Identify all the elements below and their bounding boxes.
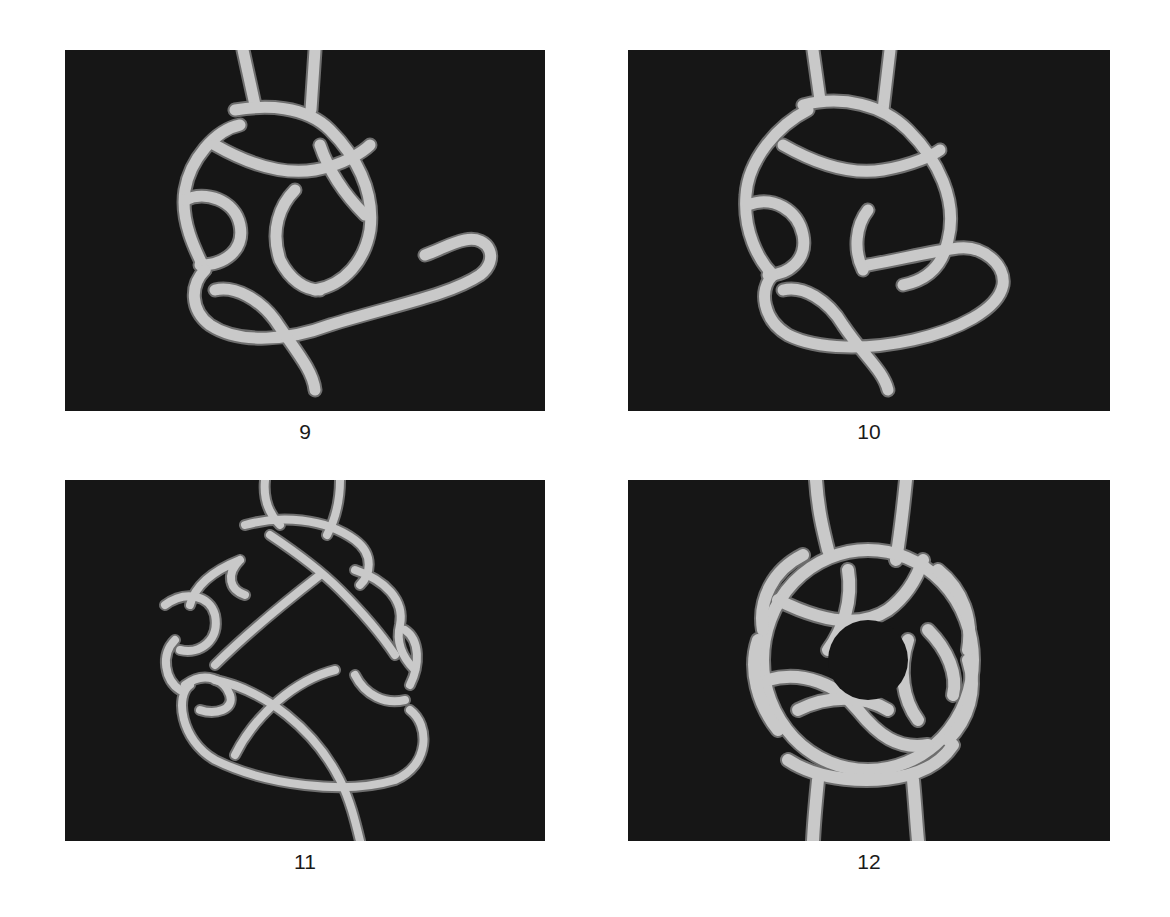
rope-knot-illustration (628, 480, 1110, 841)
figure-caption: 11 (65, 850, 545, 874)
figure-caption: 10 (628, 420, 1110, 444)
figure-caption: 12 (628, 850, 1110, 874)
figure-caption: 9 (65, 420, 545, 444)
rope-knot-illustration (628, 50, 1110, 411)
rope-knot-illustration (65, 480, 545, 841)
knot-photo-step-10 (628, 50, 1110, 411)
knot-photo-step-12 (628, 480, 1110, 841)
knot-photo-step-11 (65, 480, 545, 841)
rope-knot-illustration (65, 50, 545, 411)
knot-photo-step-9 (65, 50, 545, 411)
